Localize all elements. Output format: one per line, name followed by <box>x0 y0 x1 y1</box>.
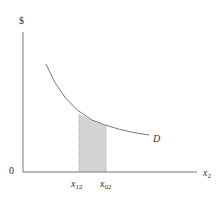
x-axis-label: x2 <box>202 167 211 180</box>
tick-label-x02: x02 <box>99 178 112 191</box>
shaded-area <box>79 114 106 172</box>
y-axis-label: $ <box>19 15 24 26</box>
origin-label: 0 <box>9 165 14 176</box>
curve-label: D <box>152 133 161 144</box>
tick-label-x12: x12 <box>70 178 83 191</box>
demand-diagram: $ 0 D x2 x12 x02 <box>0 0 222 200</box>
